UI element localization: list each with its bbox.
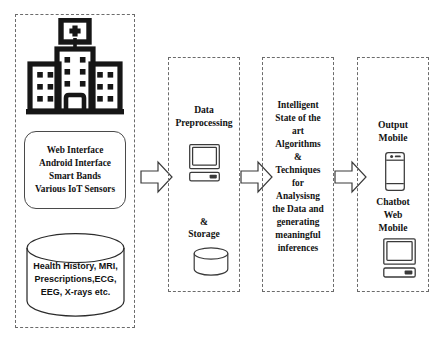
algorithms-line: generating (262, 216, 334, 229)
algorithms-line: inferences (262, 242, 334, 255)
interface-line: Android Interface (39, 157, 111, 170)
preprocessing-title-line: Data (168, 104, 240, 117)
monitor-icon (189, 144, 220, 182)
algorithms-line: Techniques (262, 164, 334, 177)
storage-label: Storage (168, 228, 240, 240)
database-line: Prescriptions,ECG, (23, 273, 128, 286)
hospital-icon (24, 18, 126, 120)
output-title-line: Output (357, 119, 429, 132)
algorithms-line: Algorithms (262, 138, 334, 151)
mobile-phone-icon (385, 152, 405, 191)
algorithms-line: for (262, 177, 334, 190)
algorithms-line: art (262, 125, 334, 138)
interface-line: Web Interface (47, 144, 104, 157)
chatbot-title: Chatbot Web Mobile (357, 196, 429, 235)
database-text: Health History, MRI, Prescriptions,ECG, … (23, 260, 128, 299)
interface-line: Smart Bands (49, 170, 101, 183)
monitor-icon (383, 238, 416, 278)
chatbot-title-line: Mobile (357, 222, 429, 235)
interface-line: Various IoT Sensors (35, 183, 115, 196)
algorithms-body: Intelligent State of the art Algorithms … (262, 99, 334, 255)
database-line: Health History, MRI, (23, 260, 128, 273)
algorithms-line: Analysisng (262, 190, 334, 203)
algorithms-line: State of the (262, 112, 334, 125)
chatbot-title-line: Chatbot (357, 196, 429, 209)
preprocessing-ampersand: & (168, 216, 240, 228)
algorithms-line: Intelligent (262, 99, 334, 112)
database-line: EEG, X-rays etc. (23, 286, 128, 299)
algorithms-line: meaningful (262, 229, 334, 242)
health-records-database: Health History, MRI, Prescriptions,ECG, … (23, 232, 128, 317)
chatbot-title-line: Web (357, 209, 429, 222)
output-title-line: Mobile (357, 132, 429, 145)
diagram-canvas: Web Interface Android Interface Smart Ba… (0, 0, 445, 343)
algorithms-line: & (262, 151, 334, 164)
interfaces-box: Web Interface Android Interface Smart Ba… (24, 131, 126, 209)
storage-database-icon (193, 247, 229, 277)
preprocessing-title: Data Preprocessing (168, 104, 240, 130)
preprocessing-title-line: Preprocessing (168, 117, 240, 130)
output-title: Output Mobile (357, 119, 429, 145)
algorithms-line: the Data and (262, 203, 334, 216)
